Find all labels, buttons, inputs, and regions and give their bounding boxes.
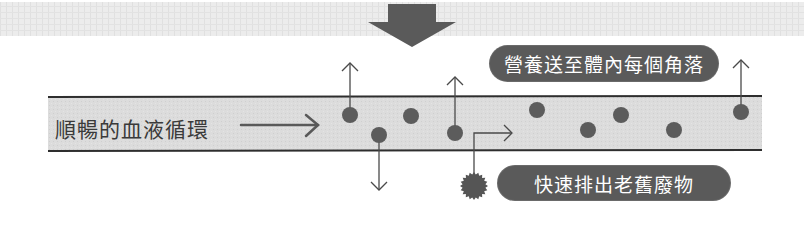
waste-callout: 快速排出老舊廢物 (498, 166, 730, 200)
nutrients-callout: 營養送至體內每個角落 (490, 46, 718, 81)
nutrient-dot (342, 107, 358, 123)
nutrient-dot (447, 125, 463, 141)
vessel-label: 順暢的血液循環 (55, 113, 209, 143)
nutrient-dot (666, 122, 682, 138)
nutrient-dot (403, 108, 419, 124)
nutrient-dot (529, 102, 545, 118)
nutrient-dot (733, 104, 749, 120)
waste-particle-icon (460, 172, 488, 200)
nutrient-dot (371, 127, 387, 143)
nutrient-dot (613, 107, 629, 123)
nutrient-dot (580, 122, 596, 138)
